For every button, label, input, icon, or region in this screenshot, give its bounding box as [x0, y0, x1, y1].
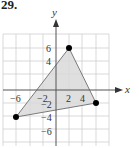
vertex-point [93, 100, 99, 106]
y-axis-arrow-icon [53, 19, 59, 27]
y-tick-label: 6 [46, 43, 51, 54]
y-tick-label: −6 [41, 126, 52, 137]
coordinate-plane: x y −6 −2 2 4 6 4 −2 −4 −6 [0, 0, 139, 148]
x-tick-label: −6 [10, 93, 21, 104]
vertex-point [66, 45, 72, 51]
y-tick-label: −4 [41, 112, 52, 123]
x-axis-arrow-icon [115, 87, 123, 93]
y-axis-label: y [51, 6, 57, 18]
y-tick-label: 4 [46, 56, 51, 67]
x-tick-label: 4 [80, 93, 85, 104]
x-tick-label: 2 [66, 93, 71, 104]
x-axis-label: x [124, 83, 130, 95]
vertex-point [13, 114, 19, 120]
y-tick-label: −2 [41, 99, 52, 110]
